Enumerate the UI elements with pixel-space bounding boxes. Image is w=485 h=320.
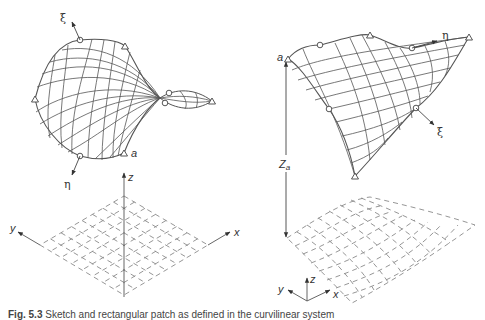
left-x-label: x: [233, 226, 240, 238]
right-a-label: a: [277, 51, 283, 63]
caption-text: Sketch and rectangular patch as defined …: [45, 309, 334, 320]
right-control-circles: [317, 42, 419, 112]
right-xi-label: ξ: [437, 126, 443, 139]
right-z-label: z: [309, 273, 316, 285]
control-point-triangle: [32, 96, 39, 102]
control-point-circle: [317, 42, 323, 48]
figure-caption: Fig. 5.3 Sketch and rectangular patch as…: [8, 309, 334, 320]
right-y-label: y: [277, 283, 285, 295]
control-point-circle: [166, 90, 172, 96]
za-label: Za: [278, 158, 291, 172]
left-panel: z y x: [9, 12, 240, 297]
control-point-triangle: [121, 150, 128, 156]
right-dashed-grid: [287, 197, 475, 303]
left-a-label: a: [131, 147, 137, 159]
left-axes: [18, 173, 230, 297]
right-surface-patch: [288, 35, 469, 176]
left-y-label: y: [9, 222, 17, 234]
right-axis-triad: [288, 278, 330, 301]
right-eta-label: η: [442, 29, 449, 42]
left-eta-arrow: [72, 156, 80, 175]
control-point-circle: [326, 106, 332, 112]
left-surface-patch: [35, 39, 160, 160]
right-x-label: x: [332, 288, 339, 300]
right-control-triangles: [285, 32, 473, 179]
caption-label: Fig. 5.3: [8, 309, 42, 320]
za-label-sub: a: [286, 163, 291, 172]
control-point-circle: [162, 100, 168, 106]
left-xi-label: ξ: [60, 12, 66, 25]
right-xi-arrow: [416, 108, 434, 125]
left-z-label: z: [127, 171, 134, 183]
left-eta-label: η: [64, 178, 71, 191]
right-panel: Za: [277, 29, 475, 303]
left-xi-arrow: [72, 22, 80, 40]
